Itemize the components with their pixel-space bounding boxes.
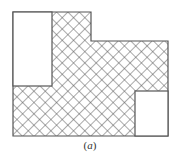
right-blank-region bbox=[135, 91, 168, 136]
caption-close: ) bbox=[93, 139, 97, 151]
figure-caption: (a) bbox=[0, 139, 180, 151]
left-blank-region bbox=[13, 12, 52, 86]
